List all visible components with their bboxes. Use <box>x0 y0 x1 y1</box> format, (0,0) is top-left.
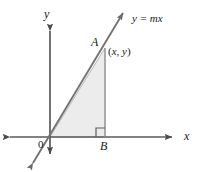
vertex-b-label: B <box>100 140 107 152</box>
line-y-equals-mx <box>33 13 123 163</box>
paren-close: ) <box>127 45 131 57</box>
geometry-figure: y x 0 A B y = mx (x, y) <box>0 0 199 172</box>
shaded-triangle <box>50 48 105 137</box>
line-equation-label: y = mx <box>132 13 163 24</box>
point-coordinates-label: (x, y) <box>108 46 131 57</box>
origin-label: 0 <box>38 139 44 150</box>
y-axis-label: y <box>44 8 49 20</box>
vertex-a-label: A <box>91 36 98 48</box>
x-axis-label: x <box>184 130 189 142</box>
